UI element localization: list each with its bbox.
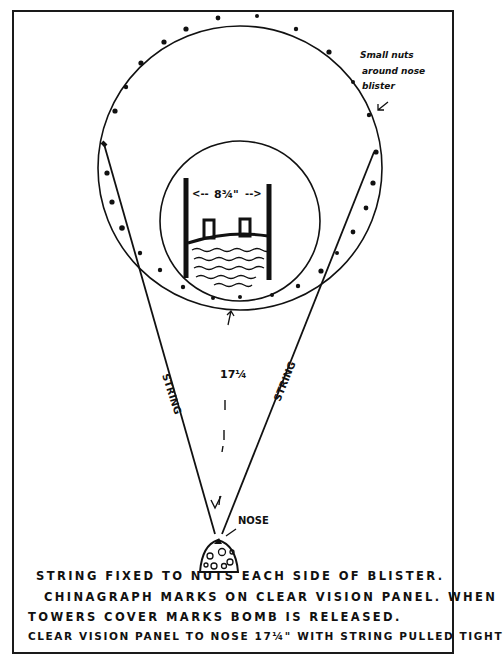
string-left-line <box>104 144 215 534</box>
nuts-note-line1: Small nuts <box>360 50 414 60</box>
nose-blister-circle <box>98 26 382 310</box>
note-line-3: TOWERS COVER MARKS BOMB IS RELEASED. <box>28 610 402 624</box>
panel-pointer-arrow-icon <box>227 311 234 325</box>
width-dimension-label: 8¾" <box>214 188 239 201</box>
nose-dome-icon <box>200 538 238 572</box>
nose-pointer-arrow-icon <box>226 529 236 536</box>
width-dimension-right-arrow: --> <box>245 188 262 199</box>
width-dimension-left-arrow: <-- <box>192 188 209 199</box>
nose-label: NOSE <box>238 515 269 526</box>
nuts-note-line2: around nose <box>362 66 425 76</box>
note-line-2: CHINAGRAPH MARKS ON CLEAR VISION PANEL. … <box>44 590 497 604</box>
string-left-label: STRING <box>160 372 183 415</box>
nuts-note-line3: blister <box>362 81 395 91</box>
distance-dashed-line <box>219 400 225 505</box>
note-line-4: CLEAR VISION PANEL TO NOSE 17¼" WITH STR… <box>28 630 503 642</box>
note-line-1: STRING FIXED TO NUTS EACH SIDE OF BLISTE… <box>36 569 444 583</box>
string-right-line <box>222 152 374 534</box>
nuts-note-arrow-icon <box>378 102 388 110</box>
string-right-label: STRING <box>272 360 298 403</box>
distance-dimension-label: 17¼ <box>220 368 247 381</box>
blister-nuts <box>104 14 378 300</box>
